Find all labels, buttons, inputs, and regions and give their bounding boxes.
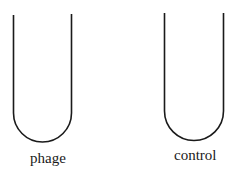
tube-control-outline (165, 13, 224, 140)
tube-phage-outline (14, 14, 72, 142)
tube-label-control: control (174, 148, 217, 163)
tube-label-phage: phage (30, 151, 66, 166)
